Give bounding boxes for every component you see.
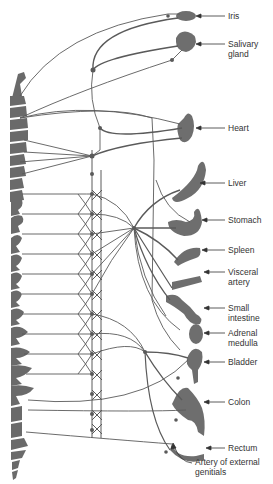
adrenal-medulla-shape: [189, 324, 203, 344]
label-colon: Colon: [228, 397, 250, 407]
label-iris: Iris: [228, 11, 239, 21]
visceral-artery-shape: [172, 276, 202, 290]
organs: [166, 11, 206, 462]
label-visceral-artery: Visceral artery: [228, 267, 258, 287]
spleen-shape: [174, 248, 201, 266]
liver-shape: [172, 162, 206, 202]
spinal-column: [10, 72, 34, 480]
label-small-intestine: Small intestine: [228, 303, 260, 323]
label-liver: Liver: [228, 178, 246, 188]
label-rectum: Rectum: [228, 443, 257, 453]
label-adrenal-medulla: Adrenal medulla: [228, 328, 258, 348]
label-salivary-gland: Salivary gland: [228, 39, 258, 59]
salivary-gland-shape: [176, 32, 196, 52]
nerve-fibers: [20, 14, 190, 450]
label-stomach: Stomach: [228, 215, 262, 225]
label-artery-of-external-genitials: Artery of external genitials: [195, 457, 260, 477]
small-intestine-shape: [166, 295, 201, 325]
label-spleen: Spleen: [228, 245, 254, 255]
bladder-shape: [187, 349, 203, 384]
label-heart: Heart: [228, 123, 249, 133]
stomach-shape: [168, 209, 202, 236]
iris-shape: [176, 11, 196, 21]
label-bladder: Bladder: [228, 357, 257, 367]
nervous-system-diagram: [0, 0, 273, 484]
